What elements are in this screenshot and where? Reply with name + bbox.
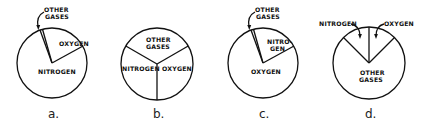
- svg-text:OTHER: OTHER: [255, 6, 280, 13]
- svg-text:GASES: GASES: [45, 13, 69, 20]
- svg-text:NITRO-: NITRO-: [267, 38, 293, 45]
- svg-text:OTHER: OTHER: [360, 69, 385, 76]
- figure-canvas: OTHER GASES OXYGEN NITROGEN a. OTHER GAS…: [0, 0, 424, 126]
- slice-divider: [254, 29, 264, 63]
- svg-text:OTHER: OTHER: [146, 36, 171, 43]
- pie-chart-a: OTHER GASES OXYGEN NITROGEN a.: [17, 6, 89, 121]
- pie-chart-c: OTHER GASES NITRO- GEN OXYGEN c.: [228, 6, 298, 121]
- label-other-gases-line2: GASES: [45, 13, 69, 20]
- panel-caption-b: b.: [153, 107, 164, 121]
- svg-text:NITROGEN: NITROGEN: [319, 20, 357, 27]
- leader-arrow: [38, 12, 44, 27]
- label-oxygen: OXYGEN: [162, 65, 192, 72]
- arrowhead-icon: [358, 34, 362, 39]
- label-nitrogen: NITROGEN: [319, 20, 357, 27]
- svg-text:OXYGEN: OXYGEN: [162, 65, 192, 72]
- label-nitrogen: NITROGEN: [38, 68, 76, 75]
- slice-divider: [43, 29, 53, 63]
- label-oxygen: OXYGEN: [251, 68, 281, 75]
- svg-text:d.: d.: [365, 107, 376, 121]
- panel-caption-c: c.: [259, 107, 269, 121]
- label-other-gases-line1: OTHER: [146, 36, 171, 43]
- svg-text:OXYGEN: OXYGEN: [59, 40, 89, 47]
- svg-text:OXYGEN: OXYGEN: [251, 68, 281, 75]
- label-other-gases-line1: OTHER: [255, 6, 280, 13]
- slice-divider: [344, 38, 370, 64]
- label-nitrogen: NITROGEN: [122, 65, 160, 72]
- label-nitrogen-line2: GEN: [270, 45, 285, 52]
- svg-text:OTHER: OTHER: [44, 6, 69, 13]
- label-other-gases-line2: GASES: [359, 76, 383, 83]
- svg-text:OXYGEN: OXYGEN: [384, 20, 414, 27]
- arrowhead-icon: [374, 34, 378, 39]
- svg-text:GEN: GEN: [270, 45, 285, 52]
- label-oxygen: OXYGEN: [384, 20, 414, 27]
- slice-divider: [369, 38, 395, 64]
- svg-text:GASES: GASES: [256, 13, 280, 20]
- pie-chart-d: NITROGEN OXYGEN OTHER GASES d.: [319, 20, 414, 121]
- label-other-gases-line1: OTHER: [44, 6, 69, 13]
- svg-text:GASES: GASES: [146, 43, 170, 50]
- pie-chart-b: OTHER GASES NITROGEN OXYGEN b.: [121, 28, 193, 121]
- panel-caption-d: d.: [365, 107, 376, 121]
- label-nitrogen-line1: NITRO-: [267, 38, 293, 45]
- svg-text:NITROGEN: NITROGEN: [122, 65, 160, 72]
- svg-text:c.: c.: [259, 107, 269, 121]
- label-other-gases-line1: OTHER: [360, 69, 385, 76]
- label-oxygen: OXYGEN: [59, 40, 89, 47]
- arrowhead-icon: [247, 25, 251, 30]
- svg-text:a.: a.: [48, 107, 59, 121]
- slice-divider: [52, 46, 83, 63]
- svg-text:GASES: GASES: [359, 76, 383, 83]
- leader-arrow: [249, 12, 255, 27]
- svg-text:NITROGEN: NITROGEN: [38, 68, 76, 75]
- label-other-gases-line2: GASES: [146, 43, 170, 50]
- panel-caption-a: a.: [48, 107, 59, 121]
- arrowhead-icon: [36, 25, 40, 30]
- label-other-gases-line2: GASES: [256, 13, 280, 20]
- svg-text:b.: b.: [153, 107, 164, 121]
